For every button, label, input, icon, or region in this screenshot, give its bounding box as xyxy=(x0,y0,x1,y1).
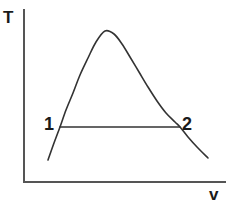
state-point-1-label: 1 xyxy=(44,115,54,133)
saturation-dome-curve xyxy=(48,31,208,160)
t-v-diagram-figure: T v 1 2 xyxy=(0,0,235,206)
y-axis-label: T xyxy=(3,9,13,26)
plot-canvas xyxy=(0,0,235,206)
state-point-2-label: 2 xyxy=(182,115,192,133)
x-axis-label: v xyxy=(209,186,218,203)
